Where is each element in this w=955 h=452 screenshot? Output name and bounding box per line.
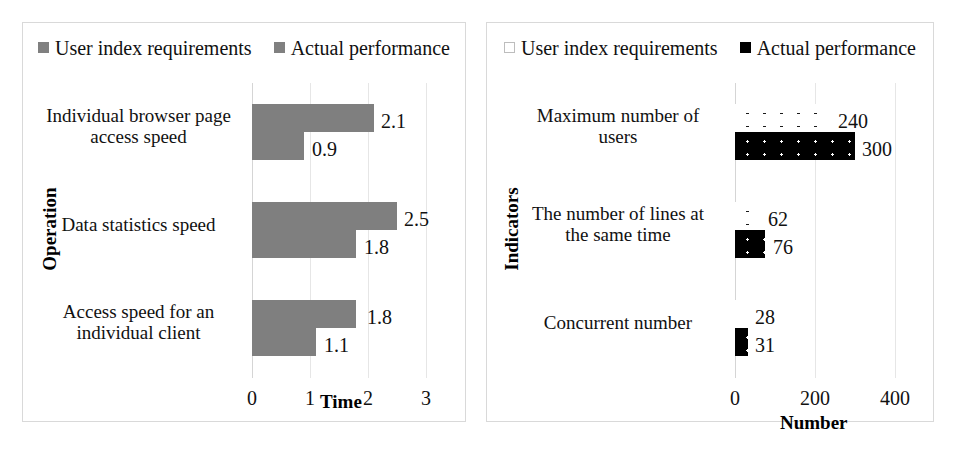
legend-label: User index requirements bbox=[55, 37, 252, 60]
bar-requirements-1[interactable] bbox=[735, 104, 831, 132]
plot-area-right: Maximum number of users 240 300 The numb… bbox=[487, 83, 933, 378]
category-label-3: Concurrent number bbox=[507, 312, 729, 333]
legend-left: User index requirements Actual performan… bbox=[23, 37, 465, 60]
bar-group-3: Access speed for an individual client 1.… bbox=[23, 279, 465, 377]
legend-label: Actual performance bbox=[291, 37, 450, 60]
x-tick-200: 200 bbox=[800, 388, 830, 408]
bar-requirements-3[interactable] bbox=[252, 300, 356, 328]
bar-value-actual-2: 1.8 bbox=[364, 237, 389, 257]
legend-label: Actual performance bbox=[757, 37, 916, 60]
legend-item-actual-performance[interactable]: Actual performance bbox=[274, 37, 450, 60]
bar-actual-2[interactable] bbox=[735, 230, 765, 258]
bar-requirements-1[interactable] bbox=[252, 104, 374, 132]
bar-value-requirements-3: 1.8 bbox=[367, 307, 392, 327]
legend-item-user-index-requirements[interactable]: User index requirements bbox=[38, 37, 252, 60]
bar-value-requirements-1: 2.1 bbox=[381, 111, 406, 131]
bar-value-requirements-3: 28 bbox=[755, 307, 775, 327]
bar-group-3: Concurrent number 28 31 bbox=[487, 279, 933, 377]
bar-actual-3[interactable] bbox=[252, 328, 316, 356]
category-label-2: The number of lines at the same time bbox=[507, 203, 729, 246]
bar-group-2: The number of lines at the same time 62 … bbox=[487, 181, 933, 279]
x-tick-3: 3 bbox=[421, 388, 431, 408]
legend-item-user-index-requirements[interactable]: User index requirements bbox=[504, 37, 718, 60]
bar-requirements-3[interactable] bbox=[735, 300, 746, 328]
bar-value-actual-1: 0.9 bbox=[312, 139, 337, 159]
bar-actual-3[interactable] bbox=[735, 328, 748, 356]
bar-group-1: Individual browser page access speed 2.1… bbox=[23, 83, 465, 181]
x-axis-title-number: Number bbox=[780, 413, 848, 432]
x-tick-1: 1 bbox=[305, 388, 315, 408]
x-tick-400: 400 bbox=[880, 388, 910, 408]
figure-canvas: User index requirements Actual performan… bbox=[0, 0, 955, 452]
bar-actual-1[interactable] bbox=[735, 132, 855, 160]
bar-group-2: Data statistics speed 2.5 1.8 bbox=[23, 181, 465, 279]
chart-panel-operation-time: User index requirements Actual performan… bbox=[22, 22, 466, 422]
legend-label: User index requirements bbox=[521, 37, 718, 60]
bar-actual-1[interactable] bbox=[252, 132, 304, 160]
bar-group-1: Maximum number of users 240 300 bbox=[487, 83, 933, 181]
x-tick-0: 0 bbox=[247, 388, 257, 408]
bar-value-requirements-2: 2.5 bbox=[404, 209, 429, 229]
bar-requirements-2[interactable] bbox=[252, 202, 397, 230]
x-axis-title-time: Time bbox=[320, 392, 362, 411]
legend-item-actual-performance[interactable]: Actual performance bbox=[740, 37, 916, 60]
bar-value-actual-3: 31 bbox=[755, 335, 775, 355]
legend-right: User index requirements Actual performan… bbox=[487, 37, 933, 60]
dotted-square-icon bbox=[504, 42, 515, 53]
bar-value-actual-1: 300 bbox=[862, 139, 892, 159]
bar-actual-2[interactable] bbox=[252, 230, 356, 258]
category-label-1: Maximum number of users bbox=[507, 105, 729, 148]
gray-square-icon bbox=[274, 42, 285, 53]
x-tick-2: 2 bbox=[363, 388, 373, 408]
bar-requirements-2[interactable] bbox=[735, 202, 760, 230]
category-label-1: Individual browser page access speed bbox=[31, 105, 246, 148]
category-label-3: Access speed for an individual client bbox=[31, 301, 246, 344]
bar-value-actual-2: 76 bbox=[773, 237, 793, 257]
bar-value-requirements-1: 240 bbox=[838, 111, 868, 131]
bar-value-requirements-2: 62 bbox=[768, 209, 788, 229]
gray-square-icon bbox=[38, 42, 49, 53]
bar-value-actual-3: 1.1 bbox=[324, 335, 349, 355]
chart-panel-indicators-number: User index requirements Actual performan… bbox=[486, 22, 934, 422]
category-label-2: Data statistics speed bbox=[31, 214, 246, 235]
black-square-icon bbox=[740, 42, 751, 53]
x-tick-0: 0 bbox=[730, 388, 740, 408]
plot-area-left: Individual browser page access speed 2.1… bbox=[23, 83, 465, 378]
